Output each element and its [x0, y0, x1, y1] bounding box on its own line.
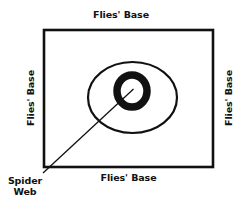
label-flies-base-top: Flies' Base [0, 9, 242, 20]
diagram-canvas: Flies' Base Flies' Base Flies' Base Flie… [0, 0, 242, 210]
label-spider-web-callout: Spider Web [1, 175, 49, 197]
flies-base-boundary-rect [44, 30, 213, 167]
label-spider-web-line1: Spider [1, 175, 49, 186]
label-spider-web-line2: Web [1, 186, 49, 197]
label-flies-base-bottom: Flies' Base [44, 172, 213, 183]
label-flies-base-right: Flies' Base [223, 70, 234, 126]
label-flies-base-left: Flies' Base [25, 70, 36, 126]
